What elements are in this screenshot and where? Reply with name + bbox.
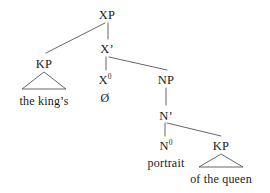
terminal-null-head: Ø: [101, 92, 110, 104]
node-np: NP: [158, 74, 174, 87]
node-n-zero: N0: [159, 140, 172, 153]
node-xp-label: XP: [99, 8, 115, 22]
node-n-zero-label: N: [159, 139, 168, 153]
terminal-portrait-label: portrait: [148, 156, 185, 170]
edge-xbar-to-np: [109, 57, 167, 70]
terminal-the-kings-label: the king’s: [20, 94, 69, 108]
node-kp-left: KP: [36, 58, 52, 71]
edge-xp-to-kp-left: [46, 23, 105, 53]
syntax-tree-diagram: XP KP X’ X0 Ø NP N’ N0 portrait KP the k…: [0, 0, 270, 193]
node-x-zero: X0: [98, 74, 111, 87]
node-kp-right: KP: [213, 140, 229, 153]
terminal-portrait: portrait: [148, 157, 185, 169]
terminal-the-kings: the king’s: [20, 95, 69, 107]
terminal-of-the-queen: of the queen: [190, 173, 252, 185]
node-n-bar: N’: [159, 110, 173, 123]
node-x-zero-superscript: 0: [108, 72, 112, 81]
node-kp-left-label: KP: [36, 57, 52, 71]
node-x-zero-label: X: [98, 73, 107, 87]
kp-right-triangle: [199, 154, 243, 167]
node-x-bar-label: X’: [100, 42, 114, 56]
node-n-bar-label: N’: [159, 109, 173, 123]
terminal-of-the-queen-label: of the queen: [190, 172, 252, 186]
edge-nbar-to-kp-right: [167, 123, 221, 136]
node-np-label: NP: [158, 73, 174, 87]
null-head-symbol: Ø: [101, 91, 110, 105]
node-xp: XP: [99, 9, 115, 22]
node-x-bar: X’: [100, 43, 114, 56]
kp-left-triangle: [22, 72, 66, 89]
node-kp-right-label: KP: [213, 139, 229, 153]
node-n-zero-superscript: 0: [169, 138, 173, 147]
